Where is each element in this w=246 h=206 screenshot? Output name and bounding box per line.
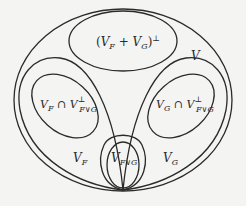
label-top-orth: (VF + VG)⊥: [96, 34, 160, 51]
label-right-VG: VG: [163, 151, 179, 167]
label-right-inner: VG ∩ V⊥F∨G: [156, 95, 214, 114]
label-left-VF: VF: [73, 151, 88, 167]
label-outer-V: V: [191, 49, 201, 63]
subspace-diagram: (VF + VG)⊥ V VF ∩ V⊥F∨G VG ∩ V⊥F∨G VF VG…: [0, 0, 246, 206]
label-bottom-VFvG: VF∨G: [111, 151, 138, 167]
label-left-inner: VF ∩ V⊥F∨G: [40, 95, 98, 114]
